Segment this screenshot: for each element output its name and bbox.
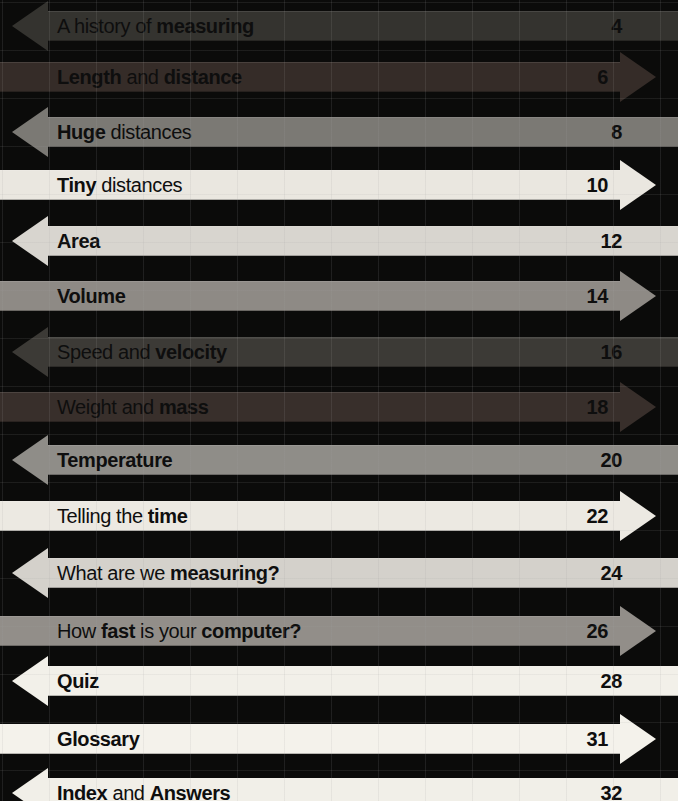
- toc-title: Telling the time: [57, 501, 187, 531]
- arrow-right-icon: [620, 52, 656, 102]
- arrow-left-icon: [12, 327, 48, 377]
- toc-title: Temperature: [57, 445, 172, 475]
- page-number: 24: [601, 558, 622, 588]
- page-number: 6: [597, 62, 608, 92]
- toc-title-segment: Length: [57, 66, 121, 88]
- toc-title: Area: [57, 226, 100, 256]
- page-number: 20: [601, 445, 622, 475]
- arrow-right-icon: [620, 714, 656, 764]
- page-number: 32: [601, 778, 622, 801]
- page-number: 18: [587, 392, 608, 422]
- toc-title-segment: distances: [105, 121, 191, 143]
- toc-title-segment: Tiny: [57, 174, 96, 196]
- toc-title: Volume: [57, 281, 125, 311]
- toc-arrow-shaft: [48, 226, 678, 256]
- toc-title: Speed and velocity: [57, 337, 227, 367]
- toc-title: Weight and mass: [57, 392, 209, 422]
- toc-title: Length and distance: [57, 62, 242, 92]
- toc-row: Length and distance6: [0, 62, 678, 92]
- toc-row: Huge distances8: [0, 117, 678, 147]
- toc-title-segment: measuring: [156, 15, 254, 37]
- toc-title-segment: Volume: [57, 285, 125, 307]
- page-number: 28: [601, 666, 622, 696]
- arrow-right-icon: [620, 606, 656, 656]
- page-number: 8: [611, 117, 622, 147]
- toc-row: Weight and mass18: [0, 392, 678, 422]
- toc-title-segment: How: [57, 620, 101, 642]
- toc-title-segment: distances: [96, 174, 182, 196]
- arrow-left-icon: [12, 656, 48, 706]
- toc-title-segment: Weight and: [57, 396, 159, 418]
- toc-title-segment: mass: [159, 396, 209, 418]
- arrow-left-icon: [12, 216, 48, 266]
- toc-title: Quiz: [57, 666, 99, 696]
- toc-row: What are we measuring?24: [0, 558, 678, 588]
- arrow-right-icon: [620, 160, 656, 210]
- toc-row: Volume14: [0, 281, 678, 311]
- arrow-left-icon: [12, 548, 48, 598]
- toc-title-segment: Glossary: [57, 728, 139, 750]
- toc-title-segment: computer?: [201, 620, 301, 642]
- toc-title: Glossary: [57, 724, 139, 754]
- toc-title-segment: fast: [101, 620, 135, 642]
- arrow-right-icon: [620, 271, 656, 321]
- page-number: 14: [587, 281, 608, 311]
- toc-title: Huge distances: [57, 117, 191, 147]
- toc-title-segment: velocity: [155, 341, 226, 363]
- page-number: 22: [587, 501, 608, 531]
- toc-title: How fast is your computer?: [57, 616, 301, 646]
- arrow-right-icon: [620, 491, 656, 541]
- arrow-left-icon: [12, 768, 48, 801]
- toc-title-segment: What are we: [57, 562, 170, 584]
- page-number: 16: [601, 337, 622, 367]
- toc-row: Glossary31: [0, 724, 678, 754]
- toc-title-segment: time: [148, 505, 188, 527]
- toc-row: How fast is your computer?26: [0, 616, 678, 646]
- toc-title-segment: measuring?: [170, 562, 279, 584]
- contents-page: A history of measuring4Length and distan…: [0, 0, 678, 801]
- toc-row: A history of measuring4: [0, 11, 678, 41]
- toc-row: Tiny distances10: [0, 170, 678, 200]
- toc-title-segment: Temperature: [57, 449, 172, 471]
- toc-row: Temperature20: [0, 445, 678, 475]
- page-number: 31: [587, 724, 608, 754]
- toc-row: Telling the time22: [0, 501, 678, 531]
- toc-title: Index and Answers: [57, 778, 230, 801]
- toc-title-segment: is your: [135, 620, 201, 642]
- arrow-left-icon: [12, 1, 48, 51]
- page-number: 12: [601, 226, 622, 256]
- toc-title-segment: Area: [57, 230, 100, 252]
- toc-title: What are we measuring?: [57, 558, 279, 588]
- page-number: 4: [611, 11, 622, 41]
- toc-title-segment: Huge: [57, 121, 105, 143]
- toc-title: Tiny distances: [57, 170, 182, 200]
- arrow-right-icon: [620, 382, 656, 432]
- toc-title-segment: Index: [57, 782, 107, 801]
- toc-title-segment: Telling the: [57, 505, 148, 527]
- toc-title-segment: Quiz: [57, 670, 99, 692]
- page-number: 10: [587, 170, 608, 200]
- toc-title-segment: distance: [164, 66, 242, 88]
- toc-arrow-shaft: [48, 666, 678, 696]
- toc-title-segment: Answers: [150, 782, 231, 801]
- arrow-left-icon: [12, 107, 48, 157]
- toc-row: Area12: [0, 226, 678, 256]
- arrow-left-icon: [12, 435, 48, 485]
- toc-row: Speed and velocity16: [0, 337, 678, 367]
- toc-row: Quiz28: [0, 666, 678, 696]
- toc-title-segment: A history of: [57, 15, 156, 37]
- page-number: 26: [587, 616, 608, 646]
- toc-row: Index and Answers32: [0, 778, 678, 801]
- toc-title-segment: Speed and: [57, 341, 155, 363]
- toc-title-segment: and: [121, 66, 163, 88]
- toc-title: A history of measuring: [57, 11, 254, 41]
- toc-title-segment: and: [107, 782, 149, 801]
